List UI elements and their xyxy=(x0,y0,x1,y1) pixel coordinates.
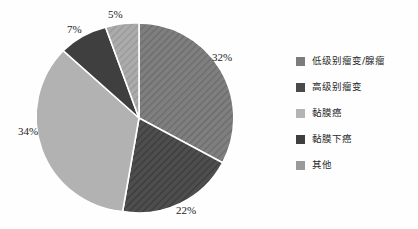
pie-value-label-high-grade-neoplasia: 22% xyxy=(176,205,196,216)
legend-item-low-grade-neoplasia: 低级别瘤变/腺瘤 xyxy=(296,48,414,74)
legend-item-submucosal-carcinoma: 黏膜下癌 xyxy=(296,126,414,152)
pie-value-label-low-grade-neoplasia: 32% xyxy=(212,52,232,63)
pie-value-label-other: 5% xyxy=(108,9,123,20)
legend-item-label: 低级别瘤变/腺瘤 xyxy=(312,56,385,66)
legend-item-other: 其他 xyxy=(296,152,414,178)
chart-legend: 低级别瘤变/腺瘤 高级别瘤变 黏膜癌 黏膜下癌 其他 xyxy=(296,48,414,178)
pie-slices xyxy=(36,23,234,213)
pie-svg xyxy=(0,0,280,229)
legend-item-label: 黏膜癌 xyxy=(312,108,342,118)
legend-item-label: 其他 xyxy=(312,160,332,170)
legend-item-mucosal-carcinoma: 黏膜癌 xyxy=(296,100,414,126)
legend-item-label: 高级别瘤变 xyxy=(312,82,362,92)
legend-swatch-icon xyxy=(296,57,305,66)
legend-swatch-icon xyxy=(296,161,305,170)
legend-swatch-icon xyxy=(296,135,305,144)
pie-plot-area: 32% 22% 34% 7% 5% xyxy=(0,0,280,229)
legend-swatch-icon xyxy=(296,83,305,92)
pie-chart-figure: 32% 22% 34% 7% 5% 低级别瘤变/腺瘤 高级别瘤变 黏膜癌 黏膜下… xyxy=(0,0,418,229)
pie-value-label-mucosal-carcinoma: 34% xyxy=(18,126,38,137)
legend-swatch-icon xyxy=(296,109,305,118)
legend-item-label: 黏膜下癌 xyxy=(312,134,352,144)
legend-item-high-grade-neoplasia: 高级别瘤变 xyxy=(296,74,414,100)
pie-value-label-submucosal-carcinoma: 7% xyxy=(67,24,82,35)
